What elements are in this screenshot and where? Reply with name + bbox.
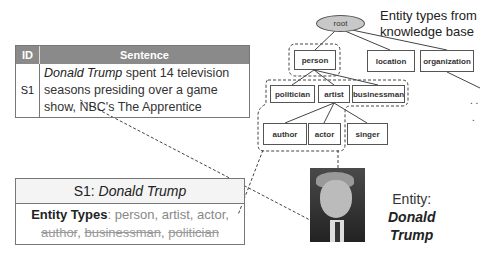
row-sentence: Donald Trump spent 14 television seasons…	[40, 64, 249, 117]
entity-label-text: Entity:	[388, 190, 435, 208]
node-author: author	[263, 123, 307, 145]
removed-type: politician	[168, 225, 219, 240]
row-id: S1	[16, 64, 40, 117]
types-label: Entity Types	[31, 207, 107, 222]
kb-title: Entity types from knowledge base	[380, 8, 477, 40]
entity-photo	[310, 168, 365, 242]
node-location: location	[367, 50, 415, 72]
ellipsis-more: . .	[470, 95, 478, 106]
node-singer: singer	[347, 123, 388, 145]
node-artist: artist	[318, 85, 350, 103]
table-header: ID Sentence	[16, 46, 249, 64]
kb-title-line1: Entity types from	[380, 8, 477, 24]
entity-name-line2: Trump	[388, 226, 435, 244]
node-person: person	[294, 50, 336, 70]
entity-label: Entity: Donald Trump	[388, 190, 435, 244]
removed-type: author	[41, 225, 77, 240]
header-id: ID	[16, 46, 40, 64]
header-sentence: Sentence	[40, 46, 249, 64]
entity-mention: Donald Trump	[44, 66, 122, 80]
node-actor: actor	[308, 123, 341, 145]
result-header: S1: Donald Trump	[16, 179, 244, 204]
node-root: root	[316, 15, 365, 32]
result-id: S1:	[74, 183, 99, 199]
node-organization: organization	[420, 50, 474, 72]
kept-types: : person, artist, actor,	[107, 207, 228, 222]
result-body: Entity Types: person, artist, actor, aut…	[16, 204, 244, 242]
kb-title-line2: knowledge base	[380, 24, 477, 40]
ellipsis-dot: .	[472, 112, 475, 123]
node-businessman: businessman	[352, 85, 405, 103]
result-entity: Donald Trump	[99, 183, 187, 199]
node-politician: politician	[270, 85, 315, 103]
table-row: S1 Donald Trump spent 14 television seas…	[16, 64, 249, 117]
photo-face	[320, 180, 352, 218]
photo-tie	[335, 222, 340, 242]
result-box: S1: Donald Trump Entity Types: person, a…	[15, 178, 245, 245]
entity-name-line1: Donald	[388, 208, 435, 226]
removed-type: businessman	[84, 225, 161, 240]
sentence-table: ID Sentence S1 Donald Trump spent 14 tel…	[15, 45, 250, 118]
